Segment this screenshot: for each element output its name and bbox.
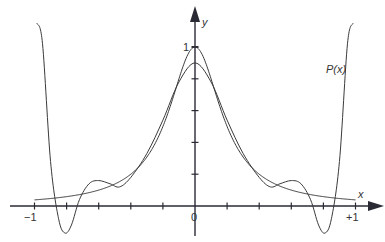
x-axis-arrow-icon (368, 201, 384, 211)
y-tick-label-1: 1 (183, 41, 189, 53)
x-tick-label-plus-1: +1 (346, 211, 359, 223)
axes (10, 6, 384, 236)
y-axis-label: y (201, 16, 209, 28)
x-tick-label-minus-1: −1 (24, 211, 37, 223)
x-axis-label: x (357, 188, 364, 200)
y-axis-arrow-icon (190, 6, 200, 22)
chart: y x 1 −1 0 +1 P(x) (0, 0, 385, 242)
x-tick-label-0: 0 (191, 211, 197, 223)
curve-label-p: P(x) (326, 63, 347, 75)
